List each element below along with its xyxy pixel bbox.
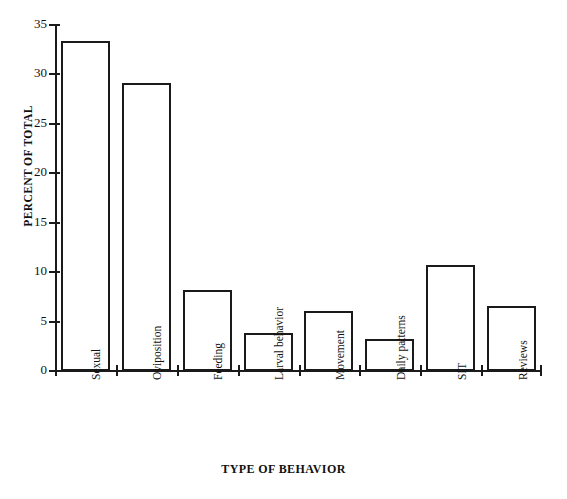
y-tick-mark bbox=[49, 222, 60, 224]
bar bbox=[304, 311, 353, 371]
x-tick-mark bbox=[299, 365, 301, 376]
y-tick-label: 35 bbox=[34, 16, 47, 32]
x-tick-mark bbox=[420, 365, 422, 376]
x-tick-mark bbox=[55, 365, 57, 376]
y-tick-label: 0 bbox=[41, 362, 48, 378]
plot-area: 05101520253035 bbox=[55, 24, 542, 373]
x-tick-mark bbox=[116, 365, 118, 376]
bar bbox=[426, 265, 475, 371]
x-category-label: Oviposition bbox=[151, 326, 163, 380]
y-tick-mark bbox=[49, 172, 60, 174]
x-category-label: SIT bbox=[456, 363, 468, 380]
x-category-label: Movement bbox=[334, 330, 346, 380]
y-tick-label: 15 bbox=[34, 214, 47, 230]
x-tick-mark bbox=[238, 365, 240, 376]
bar bbox=[122, 83, 171, 371]
x-category-label: Larval behavior bbox=[273, 307, 285, 380]
scan-artifact bbox=[300, 487, 565, 496]
bar bbox=[183, 290, 232, 371]
x-tick-mark bbox=[540, 365, 542, 376]
y-tick-mark bbox=[49, 24, 60, 26]
y-tick-mark bbox=[49, 271, 60, 273]
x-category-label: Feeding bbox=[212, 343, 224, 380]
y-axis-title: PERCENT OF TOTAL bbox=[22, 76, 34, 256]
x-category-label: Daily patterns bbox=[395, 315, 407, 380]
y-tick-mark bbox=[49, 73, 60, 75]
x-category-label: Reviews bbox=[517, 340, 529, 380]
y-tick-label: 20 bbox=[34, 164, 47, 180]
y-tick-label: 30 bbox=[34, 65, 47, 81]
x-axis-title: TYPE OF BEHAVIOR bbox=[0, 462, 567, 477]
y-tick-mark bbox=[49, 321, 60, 323]
y-tick-label: 25 bbox=[34, 115, 47, 131]
y-tick-label: 5 bbox=[41, 313, 48, 329]
x-tick-mark bbox=[481, 365, 483, 376]
x-tick-mark bbox=[359, 365, 361, 376]
bar bbox=[244, 333, 293, 371]
bar-chart-figure: PERCENT OF TOTAL 05101520253035 SexualOv… bbox=[0, 0, 567, 499]
x-category-label: Sexual bbox=[90, 349, 102, 380]
x-tick-mark bbox=[177, 365, 179, 376]
y-tick-mark bbox=[49, 123, 60, 125]
y-tick-label: 10 bbox=[34, 263, 47, 279]
bar bbox=[61, 41, 110, 371]
